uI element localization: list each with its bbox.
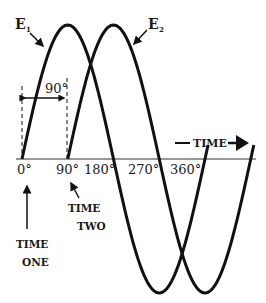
axis-tick-labels: 0° 90° 180° 270° 360°	[17, 162, 201, 177]
time-two-line2: TWO	[77, 220, 106, 232]
phase-diagram: 90° E 1 E 2 0° 90° 180° 270° 360° TIME T…	[0, 0, 266, 303]
time-two-line1: TIME	[68, 202, 100, 214]
e2-label-sub: 2	[159, 25, 164, 34]
e1-label: E 1	[15, 16, 43, 46]
tick-360: 360°	[170, 162, 201, 177]
tick-0: 0°	[17, 162, 32, 177]
time-two-arrow	[71, 183, 79, 198]
time-two-annotation: TIME TWO	[68, 183, 106, 232]
e2-label-main: E	[148, 16, 159, 32]
time-arrowhead-icon	[236, 135, 249, 151]
e1-pointer-arrow	[30, 33, 43, 46]
tick-270: 270°	[128, 162, 159, 177]
time-one-line2: ONE	[22, 256, 49, 268]
phase-label: 90°	[45, 81, 68, 96]
e1-label-main: E	[15, 16, 26, 32]
time-one-annotation: TIME ONE	[16, 186, 49, 268]
time-direction-label: TIME	[193, 137, 227, 150]
time-one-line1: TIME	[16, 238, 48, 250]
tick-90: 90°	[56, 162, 79, 177]
time-direction: TIME	[175, 135, 249, 151]
e2-pointer-arrow	[134, 30, 147, 44]
e2-label: E 2	[134, 16, 164, 44]
tick-180: 180°	[84, 162, 115, 177]
e1-label-sub: 1	[26, 25, 31, 34]
phase-marker: 90°	[22, 78, 68, 158]
